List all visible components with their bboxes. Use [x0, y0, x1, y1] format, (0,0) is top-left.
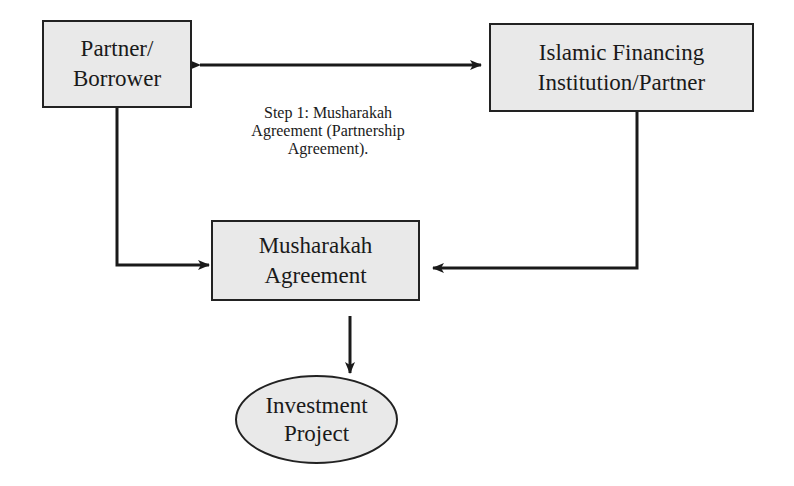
left-connector-arrow: [117, 107, 209, 265]
node-label-line2: Institution/Partner: [538, 68, 705, 98]
node-label-line1: Musharakah: [259, 231, 373, 261]
node-label-line1: Investment: [265, 392, 367, 420]
node-label-line2: Agreement: [264, 261, 366, 291]
node-label-line2: Project: [284, 420, 349, 448]
investment-project-node: Investment Project: [235, 375, 398, 464]
node-label-line2: Borrower: [73, 64, 161, 94]
financing-institution-node: Islamic Financing Institution/Partner: [489, 23, 754, 112]
partner-borrower-node: Partner/ Borrower: [42, 20, 192, 108]
step1-line1: Step 1: Musharakah: [228, 104, 428, 122]
step1-label: Step 1: Musharakah Agreement (Partnershi…: [228, 104, 428, 158]
step1-line2: Agreement (Partnership: [228, 122, 428, 140]
node-label-line1: Islamic Financing: [539, 38, 704, 68]
node-label-line1: Partner/: [81, 34, 154, 64]
right-connector-arrow: [433, 111, 637, 268]
step1-line3: Agreement).: [228, 140, 428, 158]
musharakah-agreement-node: Musharakah Agreement: [211, 220, 420, 301]
